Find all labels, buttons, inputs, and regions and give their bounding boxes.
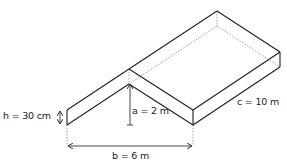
label-h: h = 30 cm (3, 110, 51, 121)
roof-diagram: h = 30 cm a = 2 m b = 6 m c = 10 m (0, 0, 287, 166)
label-c: c = 10 m (237, 96, 279, 107)
label-b: b = 6 m (112, 150, 149, 161)
dimension-arrows (60, 84, 192, 146)
label-a: a = 2 m (132, 105, 169, 116)
visible-edges (67, 11, 280, 125)
roof-drawing (0, 0, 287, 166)
